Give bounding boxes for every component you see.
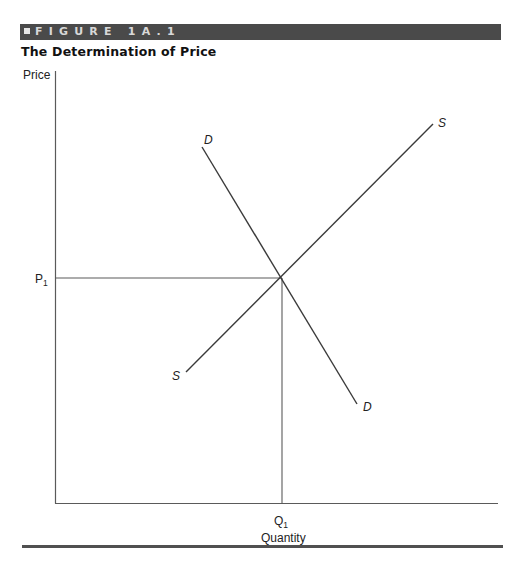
demand-bottom-label: D [363,400,372,414]
bottom-rule [22,545,503,548]
q1-label: Q1 [274,514,288,530]
p1-label: P1 [35,272,48,288]
supply-curve [186,124,433,372]
demand-top-label: D [204,133,213,147]
q1-subscript: 1 [283,520,288,530]
q1-main: Q [274,514,283,528]
y-axis-label: Price [23,68,51,82]
x-axis-label: Quantity [261,531,306,545]
supply-demand-chart: D D S S Price Quantity P1 Q1 [0,0,523,563]
p1-subscript: 1 [43,278,48,288]
supply-bottom-label: S [172,369,180,383]
demand-curve [202,147,357,404]
supply-top-label: S [438,116,446,130]
p1-main: P [35,272,43,286]
